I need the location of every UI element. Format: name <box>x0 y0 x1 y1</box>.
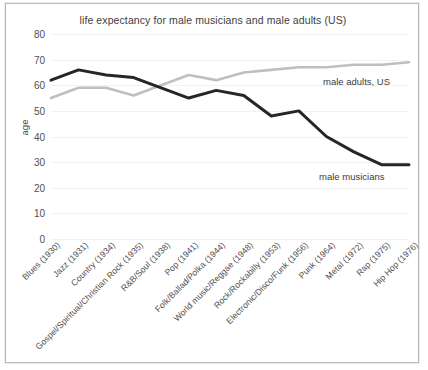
y-tick-label: 20 <box>34 182 45 193</box>
y-tick-label: 60 <box>34 80 45 91</box>
y-tick-label: 50 <box>34 105 45 116</box>
y-tick-label: 70 <box>34 54 45 65</box>
data-lines <box>51 34 409 239</box>
chart-frame: life expectancy for male musicians and m… <box>5 3 419 363</box>
y-axis-title: age <box>19 120 30 136</box>
y-tick-label: 30 <box>34 157 45 168</box>
annotation-male-musicians: male musicians <box>319 171 384 182</box>
annotation-male-adults: male adults, US <box>323 76 390 87</box>
gridline <box>51 239 409 240</box>
y-tick-label: 40 <box>34 131 45 142</box>
x-tick-label: R&B/Soul (1938) <box>119 240 172 293</box>
y-tick-label: 80 <box>34 29 45 40</box>
y-tick-label: 0 <box>39 234 45 245</box>
chart-title: life expectancy for male musicians and m… <box>6 14 420 26</box>
y-tick-label: 10 <box>34 208 45 219</box>
plot-area: age 80706050403020100 male adults, US ma… <box>51 34 409 239</box>
